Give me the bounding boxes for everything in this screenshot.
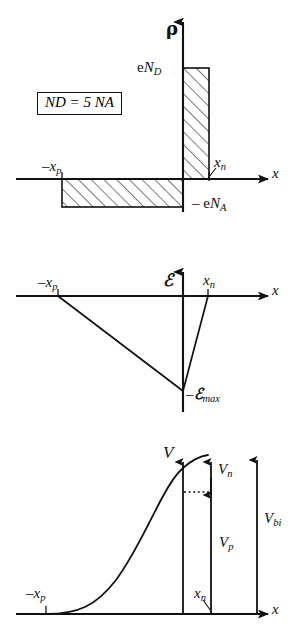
d-subscript: D	[55, 94, 66, 110]
charge-value-label-end: eND	[137, 60, 161, 77]
potential-x-axis-label: x	[272, 602, 279, 617]
x-symbol: x	[214, 154, 221, 170]
v-symbol: V	[218, 461, 227, 477]
p-subscript: p	[40, 592, 45, 603]
x-symbol: x	[194, 585, 201, 601]
n-symbol: N	[144, 59, 154, 75]
p-subscript: p	[52, 281, 57, 292]
n-subscript: n	[221, 161, 226, 172]
panel-charge-density	[16, 22, 268, 212]
e-prefix: e	[137, 59, 144, 75]
v-symbol: V	[219, 534, 228, 550]
minus-sign: –	[186, 386, 194, 402]
minus-sign: –	[26, 585, 34, 601]
charge-tick-label-xn: xn	[214, 155, 226, 172]
minus-sign: –	[38, 274, 46, 290]
charge-bar-n-side	[183, 68, 209, 179]
field-x-axis-label: x	[272, 283, 279, 298]
equals-five: = 5	[66, 94, 95, 110]
field-tick-label-xn: xn	[203, 273, 215, 290]
potential-axis-label: V	[163, 444, 173, 461]
panel-electric-field	[16, 272, 268, 412]
n-symbol: N	[210, 195, 220, 211]
potential-value-label-vn: Vn	[218, 462, 232, 479]
minus-sign: –	[42, 158, 50, 174]
potential-tick-label-minus-xp: –xp	[26, 586, 45, 603]
charge-tick-label-minus-xp: –xp	[42, 159, 61, 176]
electric-field-axis-label: ℰ	[163, 272, 173, 289]
p-subscript: p	[228, 541, 233, 552]
potential-value-label-vp: Vp	[219, 535, 233, 552]
acceptor-subscript: A	[220, 202, 226, 213]
doping-ratio-annotation: ND = 5 NA	[37, 92, 122, 115]
bi-subscript: bi	[273, 517, 281, 528]
charge-value-label-ena: – eNA	[192, 196, 226, 213]
field-profile-line	[58, 296, 208, 391]
n-subscript: n	[210, 279, 215, 290]
v-symbol: V	[264, 510, 273, 526]
field-tick-label-minus-xp: –xp	[38, 275, 57, 292]
n-subscript: n	[201, 592, 206, 603]
field-value-label-emax: –ℰmax	[186, 387, 220, 404]
a-subscript: A	[105, 94, 114, 110]
p-subscript: p	[56, 165, 61, 176]
charge-x-axis-label: x	[272, 166, 279, 181]
e-script-symbol: ℰ	[194, 385, 203, 403]
potential-value-label-vbi: Vbi	[264, 511, 281, 528]
max-subscript: max	[203, 393, 221, 404]
potential-tick-label-xn: xn	[194, 586, 206, 603]
minus-e-prefix: – e	[192, 195, 210, 211]
n-subscript: n	[227, 468, 232, 479]
nd-symbol: N	[45, 94, 55, 110]
charge-density-axis-label: ρ	[166, 20, 178, 38]
donor-subscript: D	[154, 66, 162, 77]
na-symbol: N	[95, 94, 105, 110]
x-symbol: x	[203, 272, 210, 288]
charge-bar-p-side	[62, 179, 183, 207]
